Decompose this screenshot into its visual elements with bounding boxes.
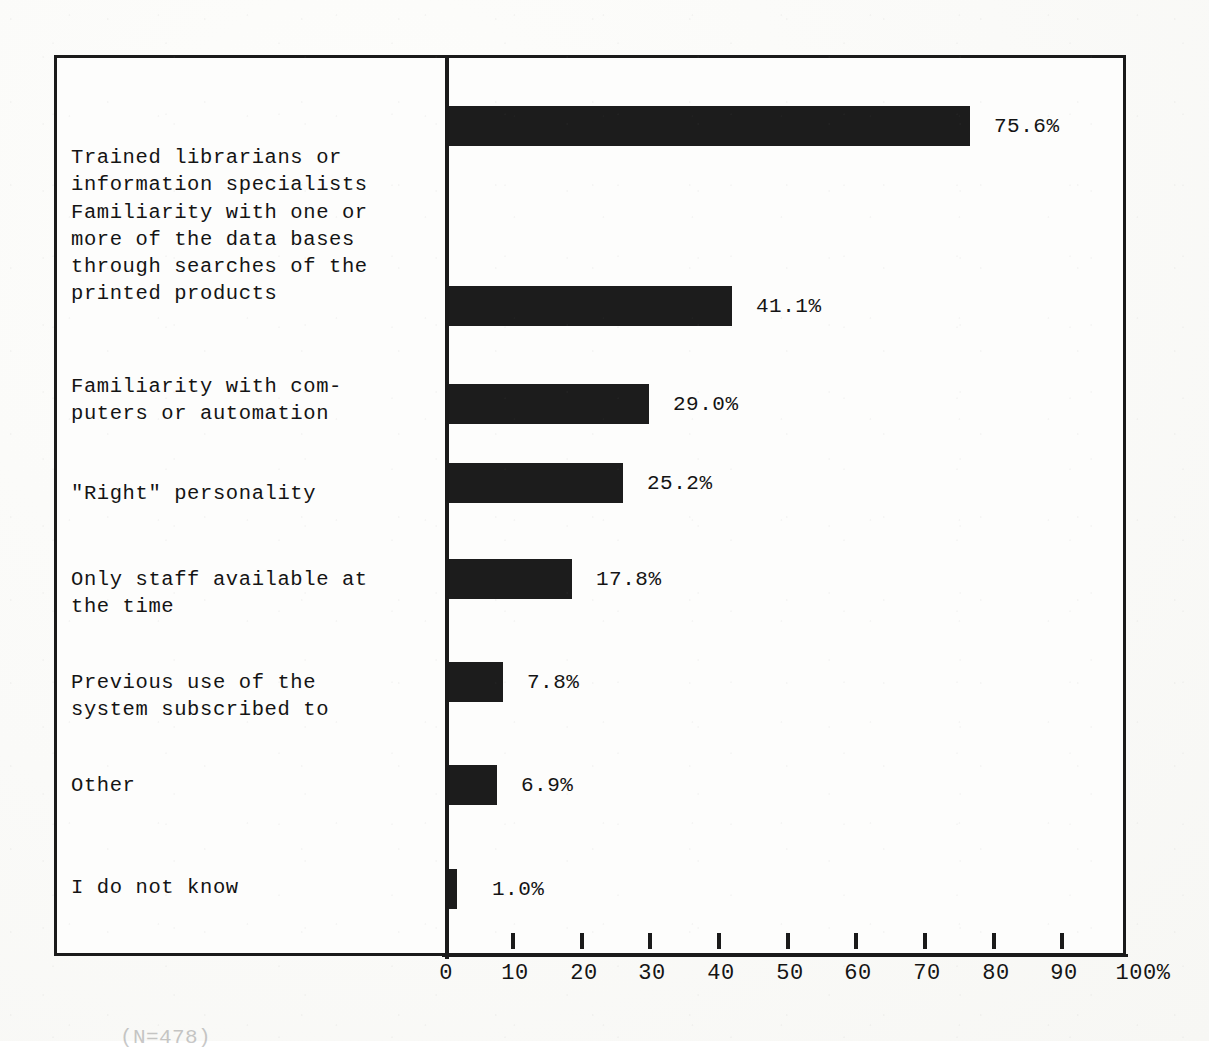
bar-value-label: 1.0% [492, 879, 544, 900]
bar [449, 384, 649, 424]
x-axis-line [442, 954, 1128, 957]
axis-tick [580, 933, 584, 949]
bar [449, 559, 572, 599]
chart-frame: Trained librarians or information specia… [54, 55, 1126, 956]
bar-value-label: 25.2% [647, 473, 713, 494]
bar [449, 463, 623, 503]
axis-tick [511, 933, 515, 949]
bar-value-label: 75.6% [994, 116, 1060, 137]
axis-tick-label: 70 [913, 962, 940, 986]
category-label: Previous use of the system subscribed to [71, 669, 329, 723]
plot-area: 75.6% 41.1% 29.0% 25.2% 17.8% 7.8% 6.9% … [449, 58, 1123, 953]
axis-tick-label: 50 [776, 962, 803, 986]
axis-tick [992, 933, 996, 949]
category-label: Familiarity with com- puters or automati… [71, 373, 342, 427]
axis-tick-label: 100% [1116, 962, 1171, 986]
bar-value-label: 41.1% [756, 296, 822, 317]
bar-value-label: 17.8% [596, 569, 662, 590]
category-label-column: Trained librarians or information specia… [57, 58, 445, 953]
axis-tick-label: 60 [844, 962, 871, 986]
category-label: Familiarity with one or more of the data… [71, 199, 368, 307]
bar [449, 662, 503, 702]
bar-value-label: 7.8% [527, 672, 579, 693]
axis-tick [717, 933, 721, 949]
axis-tick-label: 20 [570, 962, 597, 986]
bar [449, 765, 497, 805]
axis-tick-label: 40 [707, 962, 734, 986]
bar [449, 106, 970, 146]
x-axis-end-cap [1123, 920, 1126, 957]
category-label: I do not know [71, 874, 239, 901]
axis-tick-label: 80 [982, 962, 1009, 986]
bar-value-label: 29.0% [673, 394, 739, 415]
bar [449, 869, 457, 909]
axis-tick-label: 10 [501, 962, 528, 986]
category-label: Only staff available at the time [71, 566, 368, 620]
axis-tick-label: 90 [1050, 962, 1077, 986]
axis-tick [923, 933, 927, 949]
bar-value-label: 6.9% [521, 775, 573, 796]
axis-tick [786, 933, 790, 949]
axis-tick [648, 933, 652, 949]
category-label: Other [71, 772, 136, 799]
axis-tick [1060, 933, 1064, 949]
figure-caption: (N=478) [120, 1026, 1180, 1050]
axis-tick-label: 30 [638, 962, 665, 986]
category-label: Trained librarians or information specia… [71, 144, 368, 198]
axis-tick [854, 933, 858, 949]
bar [449, 286, 732, 326]
axis-tick-label: 0 [439, 962, 453, 986]
category-label: "Right" personality [71, 480, 316, 507]
